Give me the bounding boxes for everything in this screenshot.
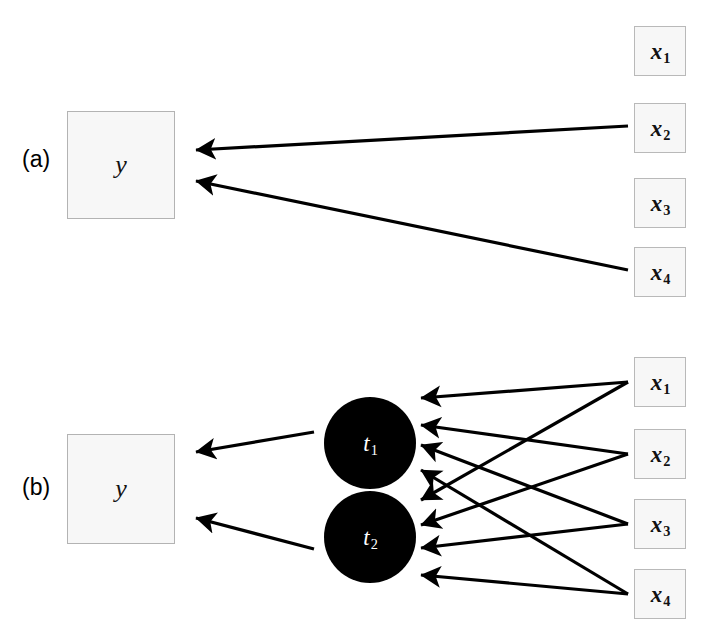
input-box-b-x4: x4: [634, 569, 686, 619]
edge-t2-to-y: [196, 518, 314, 549]
edge-t1-to-y: [196, 432, 314, 452]
diagram-canvas: (a) y x1 x2 x3 x4 (b) y t1 t2 x1 x2 x3 x…: [0, 0, 704, 633]
y-box-a-label: y: [115, 150, 127, 180]
latent-node-t1: t1: [324, 397, 416, 489]
latent-node-t1-label: t1: [363, 432, 377, 455]
edge-x2-to-y: [196, 126, 628, 150]
input-box-b-x2-label: x2: [651, 443, 670, 466]
input-box-a-x1: x1: [634, 26, 686, 76]
input-box-b-x3: x3: [634, 499, 686, 549]
input-box-b-x1: x1: [634, 357, 686, 407]
input-box-a-x3-label: x3: [651, 192, 670, 215]
input-box-a-x3: x3: [634, 178, 686, 228]
edge-x2-to-t1: [421, 425, 628, 454]
edge-x1-to-t1: [421, 382, 628, 398]
panel-b-label: (b): [22, 474, 50, 501]
latent-node-t2: t2: [324, 491, 416, 583]
input-box-b-x2: x2: [634, 429, 686, 479]
y-box-a: y: [67, 111, 175, 219]
input-box-a-x1-label: x1: [651, 40, 670, 63]
input-box-a-x2-label: x2: [651, 117, 670, 140]
y-box-b-label: y: [115, 474, 127, 504]
edge-x4-to-t2: [421, 575, 628, 594]
y-box-b: y: [67, 434, 175, 544]
edge-x4-to-y: [196, 181, 628, 270]
input-box-b-x1-label: x1: [651, 371, 670, 394]
latent-node-t2-label: t2: [363, 526, 377, 549]
input-box-b-x3-label: x3: [651, 513, 670, 536]
input-box-a-x4: x4: [634, 247, 686, 297]
input-box-b-x4-label: x4: [651, 583, 670, 606]
input-box-a-x2: x2: [634, 103, 686, 153]
panel-a-label: (a): [22, 146, 50, 173]
input-box-a-x4-label: x4: [651, 261, 670, 284]
edge-x3-to-t1: [421, 445, 628, 524]
edge-x3-to-t2: [421, 524, 628, 548]
